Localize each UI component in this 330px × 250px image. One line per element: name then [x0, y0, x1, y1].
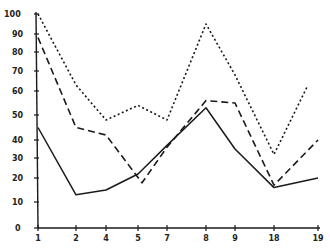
- y-axis: [36, 12, 38, 228]
- y-tick-label: 10: [12, 198, 24, 207]
- y-tick-label: 0: [15, 224, 21, 233]
- y-tick-label: 90: [12, 30, 24, 39]
- y-tick-label: 40: [12, 136, 24, 145]
- x-tick-label: 18: [268, 234, 280, 243]
- x-tick-label: 9: [232, 234, 238, 243]
- axes: [36, 12, 320, 228]
- x-tick-label: 19: [312, 234, 324, 243]
- x-tick-label: 8: [203, 234, 209, 243]
- y-axis-ticks: 0102030405060708090100: [4, 10, 39, 233]
- y-tick-label: 60: [12, 87, 24, 96]
- x-tick-label: 7: [164, 234, 170, 243]
- y-tick-label: 20: [12, 174, 24, 183]
- series-lines: [38, 14, 318, 195]
- series-dotted-line: [38, 14, 307, 154]
- x-tick-label: 2: [73, 234, 79, 243]
- line-chart: 0102030405060708090100 12457891819: [0, 0, 330, 250]
- y-tick-label: 50: [12, 111, 24, 120]
- y-tick-label: 30: [12, 154, 24, 163]
- x-tick-label: 1: [35, 234, 41, 243]
- x-tick-label: 5: [135, 234, 141, 243]
- series-dashed-line: [38, 38, 318, 186]
- series-solid-line: [38, 108, 318, 195]
- y-tick-label: 80: [12, 48, 24, 57]
- y-tick-label: 100: [4, 10, 21, 19]
- x-tick-label: 4: [103, 234, 109, 243]
- y-tick-label: 70: [12, 67, 24, 76]
